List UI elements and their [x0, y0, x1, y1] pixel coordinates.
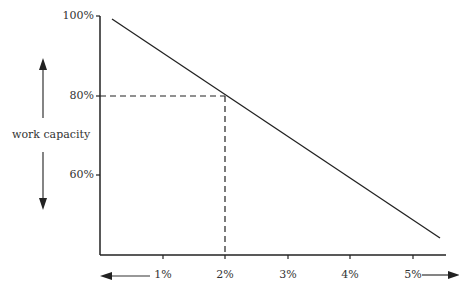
arrow-up-icon	[39, 58, 47, 118]
x-tick-1: 1%	[143, 268, 183, 281]
x-tick-4: 4%	[330, 268, 370, 281]
capacity-line	[112, 19, 440, 238]
y-axis-label: work capacity	[12, 128, 90, 141]
x-tick-3: 3%	[268, 268, 308, 281]
x-tick-2: 2%	[205, 268, 245, 281]
arrow-down-icon	[39, 152, 47, 210]
y-tick-100: 100%	[34, 9, 94, 22]
x-tick-5: 5%	[393, 268, 433, 281]
y-tick-80: 80%	[34, 89, 94, 102]
diagram-canvas	[0, 0, 459, 296]
y-tick-60: 60%	[34, 168, 94, 181]
